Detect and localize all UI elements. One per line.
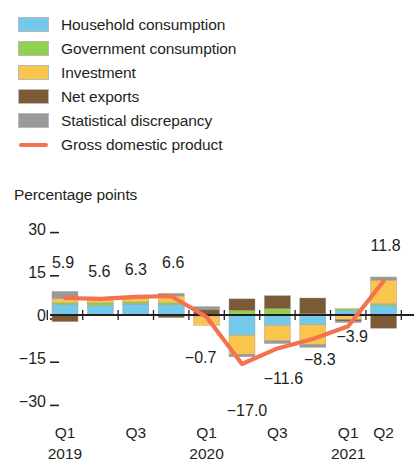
legend-item-investment: Investment — [18, 60, 236, 84]
bar-segment — [300, 345, 326, 348]
bar-segment — [87, 305, 113, 315]
bar-segment — [300, 298, 326, 314]
legend-item-label: Net exports — [61, 89, 139, 104]
chart-figure: Household consumption Government consump… — [0, 0, 416, 466]
data-label: 11.8 — [371, 237, 401, 254]
bar-segment — [264, 341, 290, 344]
bar-segment — [371, 304, 397, 305]
legend-item-statistical-discrepancy: Statistical discrepancy — [18, 108, 236, 132]
x-axis-labels: Q12019Q3Q12020Q3Q12021Q2 — [48, 424, 394, 462]
data-label: −8.3 — [304, 351, 336, 368]
x-axis-label-quarter: Q1 — [196, 424, 217, 441]
chart-legend: Household consumption Government consump… — [18, 12, 236, 156]
data-label: −11.6 — [264, 370, 303, 387]
y-tick-label: −15 — [19, 350, 46, 367]
bar-segment — [335, 309, 361, 311]
legend-swatch-icon — [18, 41, 49, 56]
x-axis-label-quarter: Q1 — [55, 424, 76, 441]
bar-segment — [52, 305, 78, 315]
bar-segment — [123, 304, 149, 315]
x-axis-label-quarter: Q3 — [267, 424, 288, 441]
data-label: 6.3 — [125, 261, 147, 278]
bar-segment — [158, 305, 184, 315]
data-label: 5.9 — [52, 254, 74, 271]
legend-item-household-consumption: Household consumption — [18, 12, 236, 36]
bar-segment — [335, 320, 361, 321]
y-tick-label: 0 — [37, 307, 46, 324]
legend-item-government-consumption: Government consumption — [18, 36, 236, 60]
bar-segment — [52, 315, 78, 322]
bar-segment — [52, 303, 78, 305]
bar-segment — [194, 307, 220, 310]
x-axis-label-year: 2020 — [189, 445, 224, 462]
y-tick-label: 15 — [28, 264, 46, 281]
x-axis-label-quarter: Q1 — [338, 424, 359, 441]
bar-segment — [87, 303, 113, 306]
bar-segment — [371, 305, 397, 315]
data-label: −17.0 — [227, 402, 268, 419]
legend-swatch-icon — [18, 113, 49, 128]
bar-segment — [229, 299, 255, 311]
legend-swatch-icon — [18, 17, 49, 32]
data-label: −0.7 — [185, 349, 217, 366]
legend-item-label: Statistical discrepancy — [61, 113, 212, 128]
chart-plot-area: 30150−15−30 5.95.66.36.6−0.7−17.0−11.6−8… — [0, 200, 416, 466]
legend-swatch-icon — [18, 65, 49, 80]
bar-segment — [229, 315, 255, 335]
x-axis-label-year: 2019 — [48, 445, 82, 462]
bar-segment — [264, 309, 290, 315]
data-labels-group: 5.95.66.36.6−0.7−17.0−11.6−8.3−3.911.8 — [52, 237, 401, 419]
bar-segment — [264, 325, 290, 341]
bar-segment — [371, 315, 397, 328]
x-axis-label-quarter: Q3 — [125, 424, 146, 441]
legend-item-gross-domestic-product: Gross domestic product — [18, 132, 236, 156]
x-axis-label-quarter: Q2 — [373, 424, 394, 441]
legend-line-icon — [18, 137, 49, 152]
x-axis-label-year: 2021 — [331, 445, 365, 462]
bar-segment — [335, 321, 361, 322]
legend-item-label: Investment — [61, 65, 136, 80]
legend-item-label: Government consumption — [61, 41, 236, 56]
data-label: −3.9 — [336, 328, 368, 345]
legend-swatch-icon — [18, 89, 49, 104]
bar-segment — [264, 296, 290, 309]
legend-item-net-exports: Net exports — [18, 84, 236, 108]
data-label: 5.6 — [88, 263, 110, 280]
bar-segment — [300, 315, 326, 325]
y-tick-label: 30 — [28, 221, 46, 238]
y-tick-label: −30 — [19, 393, 46, 410]
data-label: 6.6 — [162, 254, 184, 271]
bar-segment — [123, 302, 149, 304]
bar-segment — [264, 315, 290, 325]
legend-item-label: Household consumption — [61, 17, 225, 32]
legend-item-label: Gross domestic product — [61, 137, 222, 152]
